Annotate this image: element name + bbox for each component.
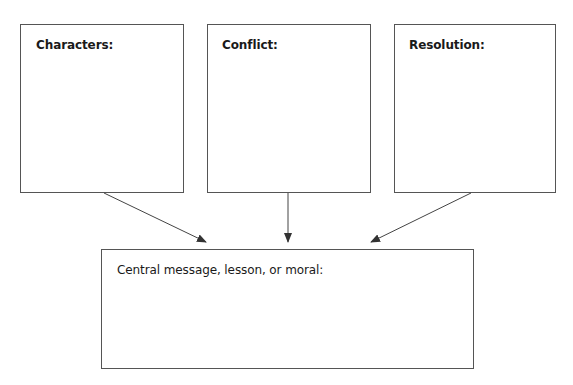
arrow-resolution-to-central [371, 193, 471, 242]
central-message-label: Central message, lesson, or moral: [117, 263, 323, 277]
resolution-box[interactable]: Resolution: [394, 24, 556, 193]
characters-label: Characters: [36, 38, 113, 52]
conflict-label: Conflict: [222, 38, 278, 52]
resolution-label: Resolution: [409, 38, 485, 52]
central-message-box[interactable]: Central message, lesson, or moral: [101, 249, 474, 369]
arrow-characters-to-central [104, 193, 206, 242]
conflict-box[interactable]: Conflict: [207, 24, 371, 193]
characters-box[interactable]: Characters: [20, 24, 184, 193]
